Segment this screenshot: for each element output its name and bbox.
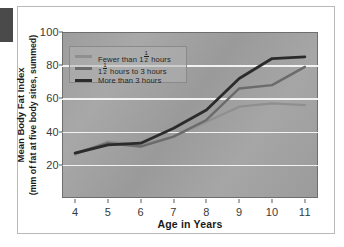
chart-figure: Mean Body Fat Index (mm of fat at five b… (0, 0, 344, 247)
plot-area: Fewer than 112 hours112 hours to 3 hours… (62, 32, 318, 198)
fraction-glyph: 12 (103, 62, 108, 75)
legend-label: 112 hours to 3 hours (98, 62, 167, 76)
x-tick-label: 10 (266, 206, 279, 218)
x-tick-mark (304, 199, 305, 203)
x-tick-mark (239, 199, 240, 203)
x-tick-mark (272, 199, 273, 203)
x-tick-mark (206, 199, 207, 203)
page-edge-artifact (0, 8, 13, 42)
x-tick-mark (107, 199, 108, 203)
y-tick-mark (59, 164, 63, 165)
y-tick-label: 60 (46, 92, 59, 104)
y-tick-label: 100 (40, 26, 59, 38)
x-axis-title: Age in Years (62, 218, 318, 230)
legend-swatch (75, 55, 92, 58)
chart-legend: Fewer than 112 hours112 hours to 3 hours… (69, 46, 187, 83)
x-tick-label: 8 (203, 206, 209, 218)
x-tick-mark (75, 199, 76, 203)
y-axis-title: Mean Body Fat Index (mm of fat at five b… (19, 32, 35, 198)
legend-swatch (75, 67, 92, 70)
y-axis-ticks: 10080604020 (34, 32, 59, 198)
legend-item: More than 3 hours (75, 75, 181, 86)
legend-item: Fewer than 112 hours (75, 51, 181, 62)
y-tick-mark (59, 65, 63, 66)
x-tick-mark (140, 199, 141, 203)
x-tick-label: 9 (236, 206, 242, 218)
x-tick-label: 6 (138, 206, 144, 218)
x-tick-label: 11 (299, 206, 311, 218)
y-tick-mark (59, 32, 63, 33)
legend-item: 112 hours to 3 hours (75, 63, 181, 74)
y-tick-label: 40 (46, 126, 59, 138)
y-tick-mark (59, 98, 63, 99)
y-axis-title-line1: Mean Body Fat Index (15, 68, 26, 163)
x-tick-label: 4 (72, 206, 78, 218)
y-tick-label: 80 (46, 59, 59, 71)
y-tick-label: 20 (46, 159, 59, 171)
x-tick-label: 5 (105, 206, 111, 218)
legend-label: More than 3 hours (98, 76, 161, 85)
x-tick-mark (173, 199, 174, 203)
x-tick-label: 7 (170, 206, 176, 218)
legend-swatch (75, 79, 92, 82)
y-tick-mark (59, 131, 63, 132)
